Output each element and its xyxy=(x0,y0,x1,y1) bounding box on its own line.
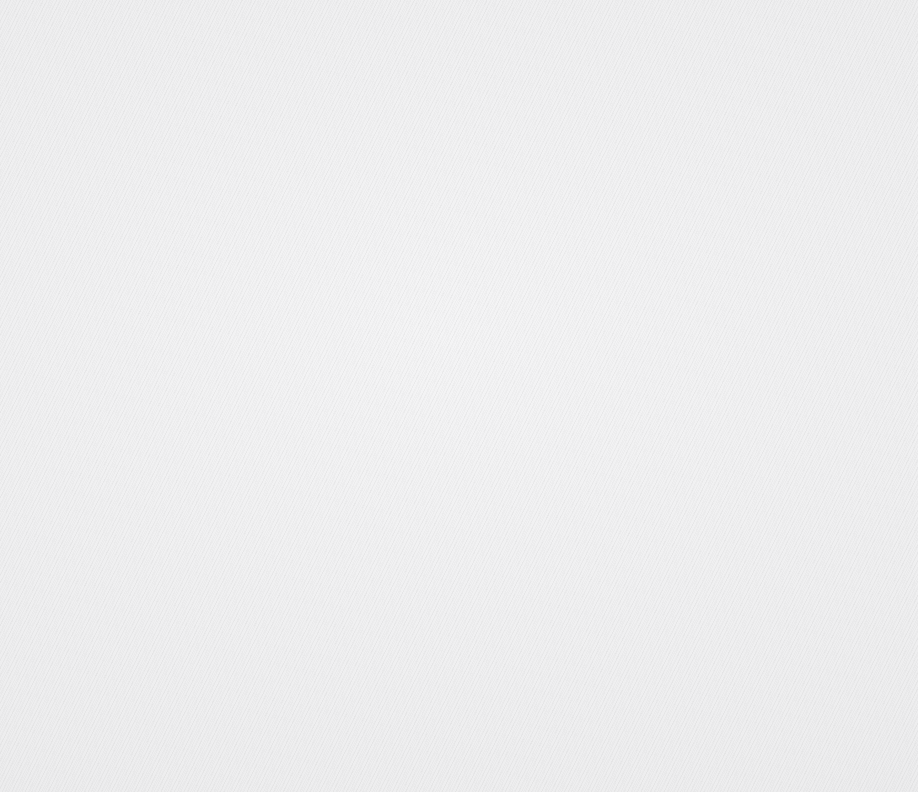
legend-item-european-descent: European Descent xyxy=(718,470,876,522)
legend-label-african-american: African American xyxy=(778,533,873,585)
legend-swatch-asian xyxy=(718,642,765,653)
series-lines xyxy=(137,139,667,650)
x-axis-title: Year xyxy=(137,743,667,767)
data-label-african-start: 10.7 xyxy=(145,543,186,567)
data-label-european-start: 78.5 xyxy=(145,178,186,202)
data-label-hispanic-start: 7.7 xyxy=(145,597,174,621)
legend: European Descent African American Hispan… xyxy=(718,470,876,669)
data-label-african-end: 15 xyxy=(615,526,638,550)
legend-item-asian: Asian xyxy=(718,632,876,658)
data-label-asian-start: 3.1 xyxy=(282,625,311,649)
x-axis-bracket xyxy=(137,650,667,674)
chart-figure: Proportion of U.S. Population 80 70 60 5… xyxy=(0,0,918,792)
legend-label-hispanic: Hispanic xyxy=(778,596,864,622)
data-label-european-end: 53 xyxy=(587,267,610,291)
legend-label-asian: Asian xyxy=(778,632,834,658)
legend-swatch-african-american xyxy=(718,543,765,554)
plot-area: Proportion of U.S. Population 80 70 60 5… xyxy=(137,139,667,650)
legend-item-hispanic: Hispanic xyxy=(718,596,876,622)
x-tick-2050: 2050 xyxy=(611,682,664,710)
legend-swatch-hispanic xyxy=(718,606,765,617)
legend-swatch-european-descent xyxy=(718,480,765,491)
data-label-asian-end: 11 xyxy=(615,594,637,618)
data-label-hispanic-end: 21 xyxy=(615,480,638,504)
legend-item-african-american: African American xyxy=(718,533,876,585)
legend-label-european-descent: European Descent xyxy=(778,470,876,522)
x-tick-1990: 1990 xyxy=(89,682,142,710)
